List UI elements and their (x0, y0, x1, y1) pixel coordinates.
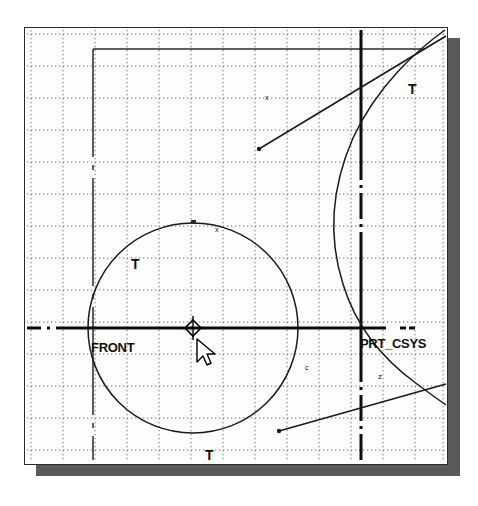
marker-label-c: c (305, 364, 308, 371)
drawing-canvas[interactable] (25, 28, 447, 464)
datum-label-front[interactable]: FRONT (91, 340, 134, 355)
tangent-label-bottom[interactable]: T (205, 447, 213, 463)
lower-leader-line[interactable] (277, 384, 446, 433)
marker-label-top-tick: x (215, 226, 218, 233)
tangent-label-upper-left[interactable]: T (131, 256, 139, 272)
datum-label-prt-csys[interactable]: PRT_CSYS (360, 336, 426, 351)
coordinate-system-marker[interactable] (181, 316, 205, 340)
tangent-label-top-right[interactable]: T (408, 81, 416, 97)
cad-graphics-window[interactable]: FRONT PRT_CSYS T T T c x z x (24, 27, 448, 465)
mouse-pointer (197, 339, 215, 365)
marker-label-z: z (378, 372, 382, 381)
cad-application-root: FRONT PRT_CSYS T T T c x z x (0, 0, 478, 506)
marker-label-x: x (265, 94, 268, 101)
upper-leader-line[interactable] (257, 36, 446, 151)
grid-lines (27, 30, 445, 462)
tangent-tick-marker (191, 220, 196, 224)
